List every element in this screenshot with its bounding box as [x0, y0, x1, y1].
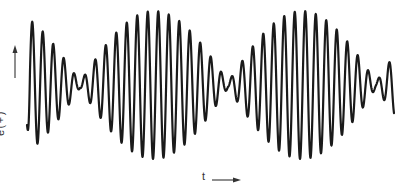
y-axis-label-text: e(+): [0, 110, 6, 136]
x-axis-label-text: t: [202, 170, 205, 182]
beat-waveform-curve: [27, 11, 394, 159]
beat-waveform-figure: [0, 0, 406, 191]
x-axis-arrow-icon: [212, 178, 241, 183]
y-axis-label: e(+): [6, 48, 20, 112]
